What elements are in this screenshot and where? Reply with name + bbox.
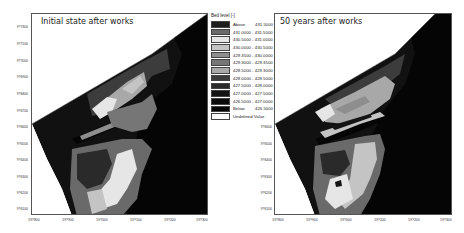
y-tick: 9?6300 [6, 175, 28, 179]
x-tick: 59?300 [190, 218, 214, 222]
legend-swatch [211, 59, 230, 66]
x-tick: 59?300 [434, 218, 458, 222]
legend-swatch [211, 21, 230, 28]
legend-swatch [211, 29, 230, 36]
x-tick: 59?900 [300, 218, 324, 222]
legend-item: 429.3000 - 429.3500 [211, 59, 273, 67]
y-tick: 9?6200 [6, 191, 28, 195]
legend-label: 429.3000 - 429.3500 [233, 60, 273, 65]
x-tick: 59?000 [334, 218, 358, 222]
bed-level-legend: Bed level [-] Above431.5000 431.0000 - 4… [211, 13, 273, 120]
y-tick: 9?6300 [250, 175, 272, 179]
x-tick: 59?800 [22, 218, 46, 222]
y-tick: 9?6200 [250, 191, 272, 195]
legend-item: Above431.5000 [211, 21, 273, 29]
right-panel-title: 50 years after works [280, 17, 362, 26]
legend-swatch [211, 52, 230, 59]
legend-item: 430.0000 - 430.5000 [211, 44, 273, 52]
y-tick: 9?6700 [6, 109, 28, 113]
y-tick: 9?6900 [6, 75, 28, 79]
legend-item: 427.0000 - 427.5000 [211, 90, 273, 98]
legend-swatch [211, 113, 230, 120]
legend-swatch [211, 36, 230, 43]
legend-item: 428.5000 - 429.3000 [211, 67, 273, 75]
legend-swatch [211, 106, 230, 113]
y-tick: 9?6400 [6, 158, 28, 162]
legend-label: 428.5000 - 429.3000 [233, 68, 273, 73]
y-tick: 9?7000 [6, 59, 28, 63]
x-tick: 59?000 [90, 218, 114, 222]
legend-label: Undefined Value [233, 114, 264, 119]
x-tick: 59?100 [124, 218, 148, 222]
y-tick: 9?7300 [6, 25, 28, 29]
legend-swatch [211, 98, 230, 105]
legend-label: 427.5000 - 428.0000 [233, 83, 273, 88]
legend-label: 429.3500 - 430.0000 [233, 53, 273, 58]
legend-label: 427.0000 - 427.5000 [233, 91, 273, 96]
y-tick: 9?6100 [6, 207, 28, 211]
x-tick: 59?900 [56, 218, 80, 222]
y-tick: 9?6100 [250, 207, 272, 211]
right-map-frame: 50 years after works [274, 13, 452, 215]
legend-swatch [211, 44, 230, 51]
legend-label: 431.0000 - 431.5000 [233, 30, 273, 35]
legend-label: 428.0000 - 428.5000 [233, 76, 273, 81]
legend-swatch [211, 67, 230, 74]
legend-item: 431.0000 - 431.5000 [211, 28, 273, 36]
legend-label: 426.5000 - 427.0000 [233, 99, 273, 104]
legend-value: 426.5000 [255, 106, 273, 111]
y-tick: 9?7100 [6, 42, 28, 46]
x-tick: 59?200 [158, 218, 182, 222]
left-map-frame: Initial state after works [31, 13, 208, 215]
legend-title: Bed level [-] [211, 13, 273, 19]
legend-item: 429.3500 - 430.0000 [211, 51, 273, 59]
legend-label: Above [233, 22, 245, 27]
legend-item: 426.5000 - 427.0000 [211, 97, 273, 105]
legend-swatch [211, 83, 230, 90]
legend-swatch [211, 75, 230, 82]
y-tick: 9?6600 [250, 125, 272, 129]
left-panel-title: Initial state after works [41, 17, 133, 26]
y-tick: 9?6600 [6, 125, 28, 129]
legend-swatch [211, 90, 230, 97]
legend-item: Undefined Value [211, 113, 273, 121]
x-tick: 59?800 [266, 218, 290, 222]
bed-level-map-initial [32, 14, 208, 215]
bed-level-map-50-years [275, 14, 452, 215]
y-tick: 9?6800 [6, 92, 28, 96]
x-tick: 59?100 [368, 218, 392, 222]
legend-item: 430.5000 - 431.0000 [211, 36, 273, 44]
y-tick: 9?6400 [250, 158, 272, 162]
legend-item: 427.5000 - 428.0000 [211, 82, 273, 90]
legend-label: 430.0000 - 430.5000 [233, 45, 273, 50]
legend-item: 428.0000 - 428.5000 [211, 74, 273, 82]
legend-item: Below426.5000 [211, 105, 273, 113]
x-tick: 59?200 [402, 218, 426, 222]
legend-label: 430.5000 - 431.0000 [233, 37, 273, 42]
y-tick: 9?6500 [250, 142, 272, 146]
legend-label: Below [233, 106, 245, 111]
y-tick: 9?6500 [6, 142, 28, 146]
legend-value: 431.5000 [255, 22, 273, 27]
